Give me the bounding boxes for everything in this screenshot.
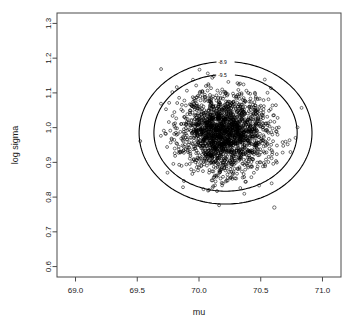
x-tick-label: 71.0 <box>315 286 331 295</box>
x-axis-title: mu <box>193 307 206 317</box>
contour-label: -9.5 <box>218 72 227 78</box>
x-tick-label: 69.5 <box>129 286 145 295</box>
scatter-plot-figure: -8.9-9.5 69.069.570.070.571.0 0.60.70.80… <box>0 0 360 327</box>
y-tick-label: 1.3 <box>44 17 53 29</box>
y-tick-label: 1.1 <box>44 87 53 99</box>
chart-canvas: -8.9-9.5 69.069.570.070.571.0 0.60.70.80… <box>0 0 360 327</box>
x-tick-label: 70.5 <box>253 286 269 295</box>
y-tick-label: 1.2 <box>44 52 53 64</box>
y-tick-label: 0.8 <box>44 191 53 203</box>
y-tick-label: 0.9 <box>44 156 53 168</box>
y-tick-label: 1.0 <box>44 122 53 134</box>
contour-label: -8.9 <box>218 59 227 65</box>
x-tick-label: 69.0 <box>68 286 84 295</box>
x-tick-label: 70.0 <box>191 286 207 295</box>
y-tick-label: 0.6 <box>44 260 53 272</box>
y-axis-title: log sigma <box>10 126 20 165</box>
y-tick-label: 0.7 <box>44 226 53 238</box>
